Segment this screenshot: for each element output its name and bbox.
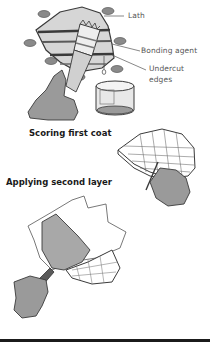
figure-scoring (118, 129, 195, 206)
label-undercut-edges-line1: Undercut (149, 64, 184, 73)
scored-patch-icon (118, 129, 195, 178)
label-undercut-edges-line2: edges (149, 75, 172, 84)
figure-bonding-agent (24, 7, 146, 120)
label-lath: Lath (128, 11, 145, 20)
hand-icon (14, 276, 48, 318)
figure-second-layer (14, 196, 126, 318)
label-bonding-agent: Bonding agent (141, 46, 197, 55)
bonding-can-icon (96, 81, 134, 115)
caption-scoring-first-coat: Scoring first coat (29, 128, 111, 138)
caption-applying-second-layer: Applying second layer (6, 177, 112, 187)
